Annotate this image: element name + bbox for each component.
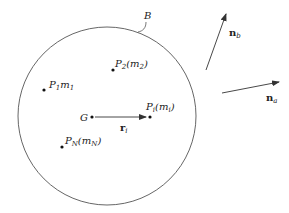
point-pi — [148, 115, 151, 118]
centroid-label: G — [80, 112, 88, 123]
point-p1-label: P1m1 — [48, 79, 74, 92]
unit-vector-nb-arrow — [206, 14, 226, 70]
point-pn — [60, 145, 63, 148]
unit-vector-na-label: na — [266, 92, 277, 105]
body-boundary — [18, 27, 196, 205]
body-label: B — [143, 10, 151, 21]
body-label-leader — [138, 22, 146, 32]
centroid-point — [90, 115, 93, 118]
point-pi-label: Pi(mi) — [145, 101, 175, 114]
rigid-body-diagram: B P1m1 P2(m2) G ri Pi(mi) PN(mN) nb na — [0, 0, 289, 213]
position-vector-label: ri — [120, 122, 128, 135]
unit-vector-nb-label: nb — [229, 27, 241, 40]
point-p1 — [42, 88, 45, 91]
point-p2-label: P2(m2) — [114, 58, 148, 71]
point-pn-label: PN(mN) — [64, 135, 101, 148]
